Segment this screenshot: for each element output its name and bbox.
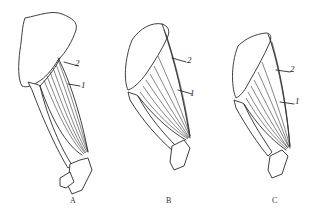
caption-c: C — [272, 196, 277, 205]
label-1-c: 1 — [295, 96, 300, 106]
label-1-a: 1 — [81, 80, 86, 90]
label-2-a: 2 — [75, 58, 80, 68]
caption-a: A — [70, 196, 76, 205]
label-1-b: 1 — [190, 88, 195, 98]
label-2-c: 2 — [290, 64, 295, 74]
panel-c: 2 1 C — [210, 0, 316, 216]
label-2-b: 2 — [187, 55, 192, 65]
limb-drawing-a — [0, 0, 110, 216]
panel-a: 2 1 A — [0, 0, 110, 216]
panel-b: 2 1 B — [110, 0, 210, 216]
limb-drawing-b — [110, 0, 210, 216]
caption-b: B — [166, 196, 171, 205]
limb-drawing-c — [210, 0, 316, 216]
